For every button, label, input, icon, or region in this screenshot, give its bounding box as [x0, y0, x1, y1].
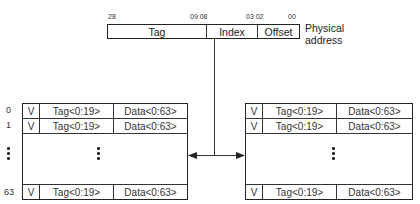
tag-cell: Tag<0:19> — [262, 104, 336, 118]
address-tag-field: Tag — [108, 25, 206, 38]
tag-cell: Tag<0:19> — [262, 119, 336, 133]
tag-cell: Tag<0:19> — [39, 104, 113, 118]
data-cell: Data<0:63> — [336, 185, 412, 199]
physical-address-box: Tag Index Offset — [107, 24, 300, 39]
bit-label-28: 28 — [108, 13, 116, 20]
row-ellipsis-icon — [7, 147, 10, 162]
tag-cell: Tag<0:19> — [39, 185, 113, 199]
valid-bit: V — [246, 185, 262, 199]
cache-row: V Tag<0:19> Data<0:63> — [246, 119, 412, 134]
cache-row: V Tag<0:19> Data<0:63> — [246, 104, 412, 119]
address-offset-field: Offset — [257, 25, 299, 38]
arrow-right-icon — [235, 151, 245, 160]
data-cell: Data<0:63> — [113, 104, 187, 118]
index-connector-line — [214, 39, 215, 156]
bit-label-00: 00 — [288, 13, 296, 20]
cache-row: V Tag<0:19> Data<0:63> — [23, 184, 187, 199]
right-cache-array: V Tag<0:19> Data<0:63> V Tag<0:19> Data<… — [245, 103, 413, 200]
valid-bit: V — [246, 104, 262, 118]
data-cell: Data<0:63> — [113, 185, 187, 199]
data-cell: Data<0:63> — [336, 119, 412, 133]
row-index-0: 0 — [6, 105, 11, 115]
valid-bit: V — [23, 119, 39, 133]
ellipsis-icon — [332, 147, 335, 162]
cache-row: V Tag<0:19> Data<0:63> — [23, 119, 187, 134]
caption-line-1: Physical — [305, 22, 344, 34]
left-cache-array: V Tag<0:19> Data<0:63> V Tag<0:19> Data<… — [22, 103, 188, 200]
valid-bit: V — [246, 119, 262, 133]
row-index-1: 1 — [6, 120, 11, 130]
ellipsis-icon — [97, 147, 100, 162]
address-index-field: Index — [206, 25, 257, 38]
row-index-63: 63 — [4, 187, 14, 197]
cache-row: V Tag<0:19> Data<0:63> — [246, 184, 412, 199]
index-horizontal-line — [196, 155, 238, 156]
valid-bit: V — [23, 185, 39, 199]
caption-line-2: address — [305, 34, 344, 46]
valid-bit: V — [23, 104, 39, 118]
bit-label-03-02: 03 02 — [246, 13, 264, 20]
data-cell: Data<0:63> — [336, 104, 412, 118]
data-cell: Data<0:63> — [113, 119, 187, 133]
arrow-left-icon — [188, 151, 198, 160]
physical-address-caption: Physical address — [305, 22, 344, 46]
cache-row: V Tag<0:19> Data<0:63> — [23, 104, 187, 119]
bit-label-09-08: 09 08 — [190, 13, 208, 20]
tag-cell: Tag<0:19> — [39, 119, 113, 133]
tag-cell: Tag<0:19> — [262, 185, 336, 199]
